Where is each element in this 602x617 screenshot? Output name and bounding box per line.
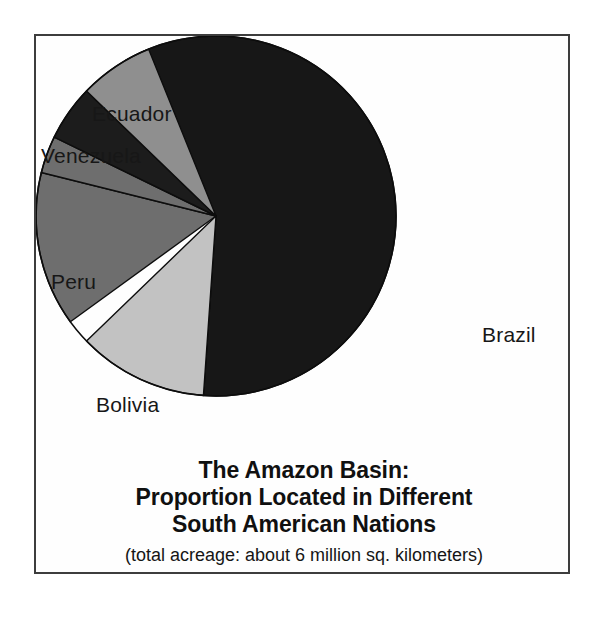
pie-label-brazil: Brazil <box>482 323 536 347</box>
chart-title-line-2: Proportion Located in Different <box>36 484 572 511</box>
chart-frame: Colombia Ecuador Venezuela Peru Bolivia … <box>34 34 570 574</box>
chart-subtitle: (total acreage: about 6 million sq. kilo… <box>36 543 572 568</box>
pie-label-bolivia: Bolivia <box>96 393 159 417</box>
chart-title-line-1: The Amazon Basin: <box>36 457 572 484</box>
pie-label-colombia: Colombia <box>167 55 257 79</box>
chart-title-block: The Amazon Basin: Proportion Located in … <box>36 457 572 568</box>
pie-label-peru: Peru <box>51 270 96 294</box>
pie-label-ecuador: Ecuador <box>92 102 172 126</box>
pie-slice-group <box>36 36 396 396</box>
pie-label-venezuela: Venezuela <box>41 144 141 168</box>
figure-root: Colombia Ecuador Venezuela Peru Bolivia … <box>0 0 602 617</box>
chart-title-line-3: South American Nations <box>36 511 572 538</box>
